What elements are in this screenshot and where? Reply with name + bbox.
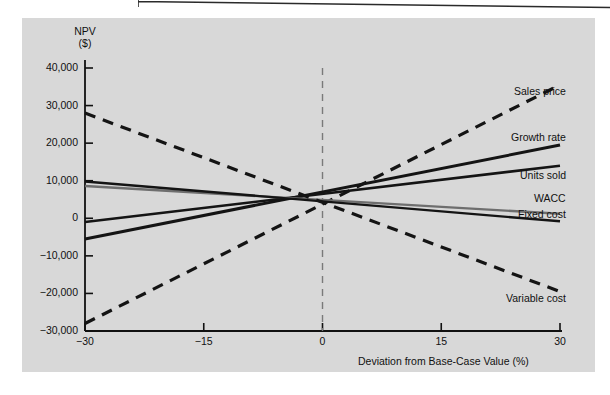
x-tick-label: 0: [298, 335, 348, 347]
series-label-variable-cost: Variable cost: [506, 292, 566, 304]
x-tick-label: −15: [179, 335, 229, 347]
y-axis-title-line2: ($): [62, 37, 108, 49]
x-tick-label: 30: [535, 335, 585, 347]
y-tick-label: 20,000: [16, 136, 78, 148]
y-tick-label: 10,000: [16, 174, 78, 186]
series-label-growth-rate: Growth rate: [511, 131, 566, 143]
series-label-fixed-cost: Fixed cost: [518, 208, 566, 220]
figure-canvas: NPV ($) Deviation from Base-Case Value (…: [0, 0, 610, 395]
y-tick-label: −20,000: [16, 286, 78, 298]
y-tick-label: 0: [16, 211, 78, 223]
series-label-wacc: WACC: [534, 192, 566, 204]
x-axis-title: Deviation from Base-Case Value (%): [358, 355, 529, 367]
series-label-units-sold: Units sold: [520, 169, 566, 181]
axis-group: [85, 60, 562, 331]
x-tick-label: 15: [416, 335, 466, 347]
y-tick-label: 40,000: [16, 61, 78, 73]
y-axis-title: NPV ($): [62, 25, 108, 49]
y-axis-title-line1: NPV: [62, 25, 108, 37]
y-tick-label: −10,000: [16, 249, 78, 261]
y-tick-label: 30,000: [16, 99, 78, 111]
x-tick-label: −30: [60, 335, 110, 347]
series-label-sales-price: Sales price: [514, 85, 566, 97]
